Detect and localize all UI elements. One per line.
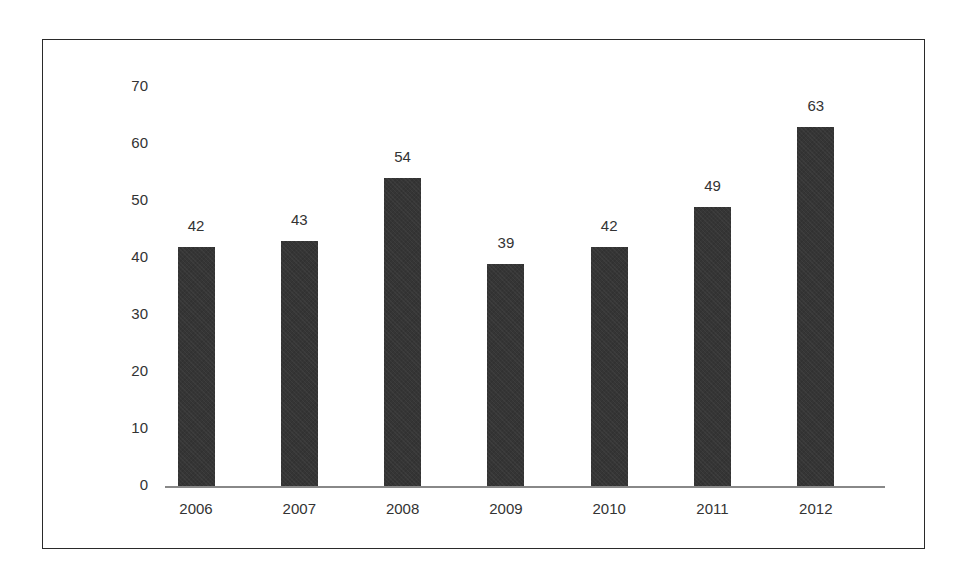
data-label: 39: [476, 234, 536, 251]
y-axis-tick-label: 30: [108, 305, 148, 322]
data-label: 42: [166, 217, 226, 234]
bar-2008: [384, 178, 421, 486]
y-axis-tick-label: 40: [108, 248, 148, 265]
data-label: 49: [683, 177, 743, 194]
data-label: 43: [269, 211, 329, 228]
bar-2012: [797, 127, 834, 486]
y-axis-tick-label: 60: [108, 134, 148, 151]
y-axis-tick-label: 10: [108, 419, 148, 436]
bar-2009: [487, 264, 524, 486]
x-axis-line: [165, 486, 885, 488]
data-label: 63: [786, 97, 846, 114]
y-axis-tick-label: 0: [108, 476, 148, 493]
bar-2006: [178, 247, 215, 486]
data-label: 42: [579, 217, 639, 234]
data-label: 54: [373, 148, 433, 165]
bar-2011: [694, 207, 731, 486]
x-axis-tick-label: 2009: [476, 500, 536, 517]
x-axis-tick-label: 2008: [373, 500, 433, 517]
chart-frame: [42, 39, 925, 549]
y-axis-tick-label: 50: [108, 191, 148, 208]
y-axis-tick-label: 70: [108, 77, 148, 94]
bar-2007: [281, 241, 318, 486]
x-axis-tick-label: 2011: [683, 500, 743, 517]
x-axis-tick-label: 2006: [166, 500, 226, 517]
y-axis-tick-label: 20: [108, 362, 148, 379]
x-axis-tick-label: 2007: [269, 500, 329, 517]
x-axis-tick-label: 2010: [579, 500, 639, 517]
x-axis-tick-label: 2012: [786, 500, 846, 517]
bar-2010: [591, 247, 628, 486]
